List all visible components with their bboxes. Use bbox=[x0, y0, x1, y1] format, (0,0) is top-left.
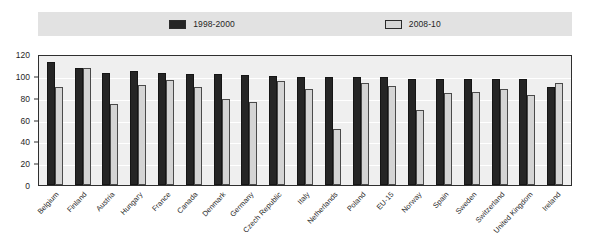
x-label-slot: Ireland bbox=[542, 188, 570, 244]
bar bbox=[472, 92, 480, 185]
x-axis: BelgiumFinlandAustriaHungaryFranceCanada… bbox=[38, 188, 572, 244]
bar bbox=[492, 79, 500, 185]
bar bbox=[47, 62, 55, 185]
y-tick-label: 60 bbox=[21, 116, 30, 126]
y-tick-label: 100 bbox=[16, 72, 30, 82]
x-label-slot: United Kingdom bbox=[514, 188, 542, 244]
bar bbox=[55, 87, 63, 185]
x-axis-label: Ireland bbox=[540, 190, 562, 213]
bar-group bbox=[69, 56, 97, 185]
bar bbox=[500, 89, 508, 185]
bar bbox=[436, 79, 444, 185]
x-label-slot: EU-15 bbox=[375, 188, 403, 244]
y-tick-label: 0 bbox=[25, 181, 30, 191]
bar bbox=[249, 102, 257, 185]
bar-group bbox=[263, 56, 291, 185]
bar bbox=[130, 71, 138, 185]
bar bbox=[353, 77, 361, 185]
x-axis-label: Austria bbox=[94, 190, 117, 213]
x-axis-label: Italy bbox=[296, 190, 312, 206]
bar-group bbox=[152, 56, 180, 185]
bar-group bbox=[41, 56, 69, 185]
bar-group bbox=[347, 56, 375, 185]
legend-label-1998-2000: 1998-2000 bbox=[193, 19, 235, 29]
bar bbox=[297, 77, 305, 185]
x-axis-label: France bbox=[150, 190, 172, 213]
bar bbox=[519, 79, 527, 185]
bar bbox=[241, 75, 249, 185]
bar-group bbox=[97, 56, 125, 185]
bar bbox=[222, 99, 230, 185]
bar-group bbox=[375, 56, 403, 185]
bar-group bbox=[208, 56, 236, 185]
legend-label-2008-10: 2008-10 bbox=[409, 19, 441, 29]
bar bbox=[75, 68, 83, 185]
bar-group bbox=[486, 56, 514, 185]
y-tick-label: 20 bbox=[21, 159, 30, 169]
x-label-slot: Spain bbox=[430, 188, 458, 244]
bar bbox=[388, 86, 396, 185]
x-label-slot: Netherlands bbox=[319, 188, 347, 244]
x-label-slot: Poland bbox=[347, 188, 375, 244]
x-axis-label: Poland bbox=[345, 190, 367, 213]
x-axis-label: Finland bbox=[65, 190, 88, 214]
bars-layer bbox=[39, 56, 571, 185]
x-label-slot: Austria bbox=[96, 188, 124, 244]
bar bbox=[408, 79, 416, 185]
grouped-bar-chart: 1998-2000 2008-10 020406080100120 Belgiu… bbox=[0, 0, 611, 247]
y-tick-label: 40 bbox=[21, 137, 30, 147]
bar bbox=[361, 83, 369, 185]
bar-group bbox=[180, 56, 208, 185]
x-axis-label: Canada bbox=[176, 190, 200, 215]
bar-group bbox=[430, 56, 458, 185]
x-label-slot: Belgium bbox=[40, 188, 68, 244]
bar bbox=[555, 83, 563, 185]
bar bbox=[102, 73, 110, 185]
bar-group bbox=[541, 56, 569, 185]
bar-group bbox=[458, 56, 486, 185]
x-axis-label: Sweden bbox=[454, 190, 479, 216]
bar bbox=[277, 81, 285, 185]
x-label-slot: Czech Republic bbox=[263, 188, 291, 244]
bar bbox=[547, 87, 555, 185]
bar bbox=[166, 80, 174, 185]
bar bbox=[194, 87, 202, 185]
bar-group bbox=[124, 56, 152, 185]
legend-swatch-light-icon bbox=[385, 20, 402, 29]
bar bbox=[464, 79, 472, 185]
bar-group bbox=[291, 56, 319, 185]
bar bbox=[444, 93, 452, 185]
x-axis-label: Spain bbox=[431, 190, 451, 210]
plot-wrap bbox=[38, 55, 572, 186]
bar-group bbox=[514, 56, 542, 185]
bar-group bbox=[319, 56, 347, 185]
bar bbox=[158, 73, 166, 185]
legend-entry-2008-10: 2008-10 bbox=[385, 19, 441, 29]
bar bbox=[527, 95, 535, 185]
y-tick-label: 80 bbox=[21, 94, 30, 104]
bar bbox=[110, 104, 118, 185]
bar bbox=[333, 129, 341, 185]
x-label-slot: Hungary bbox=[124, 188, 152, 244]
bar bbox=[83, 68, 91, 185]
bar bbox=[138, 85, 146, 185]
x-label-slot: Finland bbox=[68, 188, 96, 244]
y-tick-label: 120 bbox=[16, 50, 30, 60]
x-label-slot: France bbox=[152, 188, 180, 244]
chart-legend: 1998-2000 2008-10 bbox=[38, 12, 572, 36]
y-axis: 020406080100120 bbox=[0, 55, 38, 186]
x-axis-label: Norway bbox=[399, 190, 423, 215]
bar bbox=[416, 110, 424, 185]
x-axis-label: Belgium bbox=[35, 190, 60, 216]
bar-group bbox=[402, 56, 430, 185]
bar bbox=[214, 74, 222, 185]
plot-area bbox=[38, 55, 572, 186]
bar bbox=[186, 74, 194, 185]
legend-entry-1998-2000: 1998-2000 bbox=[169, 19, 235, 29]
bar bbox=[380, 77, 388, 185]
bar-group bbox=[236, 56, 264, 185]
bar bbox=[325, 77, 333, 185]
bar bbox=[305, 89, 313, 185]
x-axis-label: EU-15 bbox=[374, 190, 395, 212]
legend-swatch-dark-icon bbox=[169, 20, 186, 29]
